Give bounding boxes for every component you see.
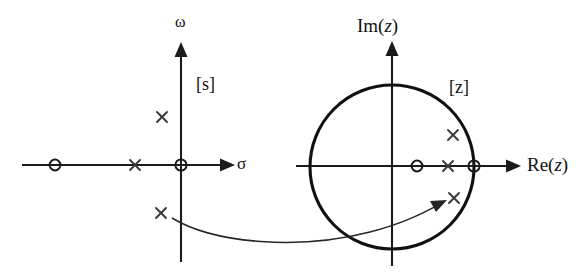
z-plane-pole-lower	[449, 193, 459, 203]
z-plane-label: [z]	[449, 78, 469, 96]
s-plane-real-axis-arrowhead	[220, 159, 235, 172]
mapping-arrow-head	[430, 200, 447, 212]
figure-canvas	[0, 0, 585, 273]
z-plane-real-axis-label: Re(z)	[527, 155, 568, 174]
s-plane-pole-lower	[156, 208, 166, 218]
z-plane-imag-axis-label: Im(z)	[357, 16, 398, 35]
z-plane-pole-upper	[448, 130, 458, 140]
s-plane-label: [s]	[196, 75, 215, 93]
s-plane-real-axis-label: σ	[237, 155, 246, 172]
s-plane-pole-upper	[157, 112, 167, 122]
z-plane-imag-axis-arrowhead	[386, 41, 399, 56]
z-plane-group	[296, 41, 521, 266]
s-plane-imag-axis-label: ω	[175, 14, 186, 30]
mapping-arrow-group	[172, 200, 447, 242]
pole-zero-mapping-figure: ω σ [s] Im(z) Re(z) [z]	[0, 0, 585, 273]
mapping-arrow-curve	[172, 203, 442, 242]
s-plane-imag-axis-arrowhead	[175, 42, 188, 57]
z-plane-real-axis-arrowhead	[506, 160, 521, 173]
